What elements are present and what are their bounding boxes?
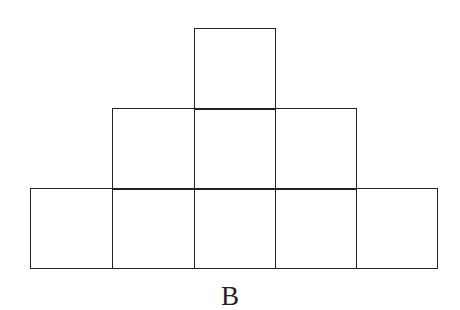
- square-r3-c1: [30, 188, 113, 269]
- square-r2-c2: [112, 108, 195, 190]
- square-r3-c4: [275, 188, 357, 269]
- square-r3-c2: [112, 188, 195, 269]
- square-r3-c3: [194, 188, 276, 269]
- figure-label: B: [0, 283, 460, 310]
- square-r3-c5: [356, 188, 438, 269]
- square-r2-c3: [194, 108, 276, 190]
- square-r1-c3: [194, 28, 276, 110]
- square-r2-c4: [275, 108, 357, 190]
- pyramid-square-figure: B: [0, 0, 460, 310]
